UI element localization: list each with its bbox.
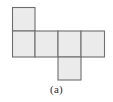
net-square-top-col0 — [13, 8, 36, 32]
figure-container: (a) — [0, 0, 113, 102]
cube-net-svg — [0, 0, 113, 84]
net-square-bottom-col2 — [58, 57, 81, 80]
figure-caption: (a) — [0, 82, 113, 96]
net-square-mid-col2 — [58, 31, 81, 57]
net-square-mid-col3 — [81, 31, 105, 57]
net-square-mid-col0 — [13, 31, 36, 57]
net-square-mid-col1 — [35, 31, 58, 57]
cube-net-diagram — [0, 0, 113, 84]
